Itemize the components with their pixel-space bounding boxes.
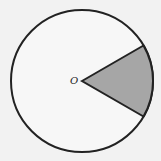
circle-diagram [0,0,161,161]
center-label-o: O [70,76,78,86]
diagram-canvas: O [0,0,161,161]
